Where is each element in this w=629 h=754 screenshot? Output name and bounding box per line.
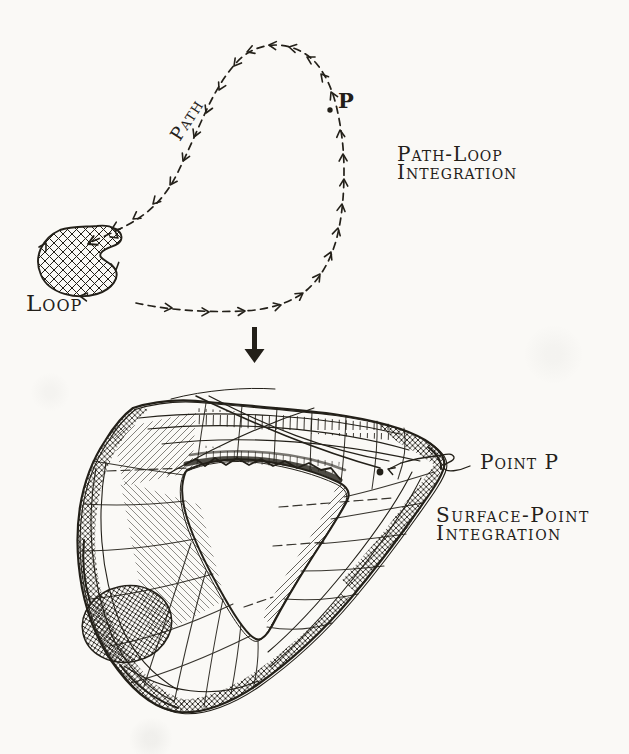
loop-label: Loop — [26, 294, 82, 312]
path-loop-figure — [38, 41, 348, 316]
point-p-marker — [377, 454, 470, 475]
down-arrow-icon — [245, 327, 265, 363]
sketch-page: Path P Path-Loop Integration Loop Point … — [0, 0, 629, 754]
bottom-caption: Surface-Point Integration — [436, 506, 590, 542]
point-p-label-bottom: Point P — [480, 453, 559, 471]
surface-figure — [75, 388, 470, 713]
dashed-path-curve — [89, 45, 344, 312]
point-p-dot-surface — [377, 469, 384, 476]
illustration-canvas — [0, 0, 629, 754]
point-p-dot-top — [327, 107, 332, 112]
path-direction-arrows — [86, 41, 348, 316]
top-caption-line2: Integration — [397, 163, 517, 181]
top-caption: Path-Loop Integration — [397, 145, 517, 181]
point-p-label-top: P — [338, 92, 355, 110]
